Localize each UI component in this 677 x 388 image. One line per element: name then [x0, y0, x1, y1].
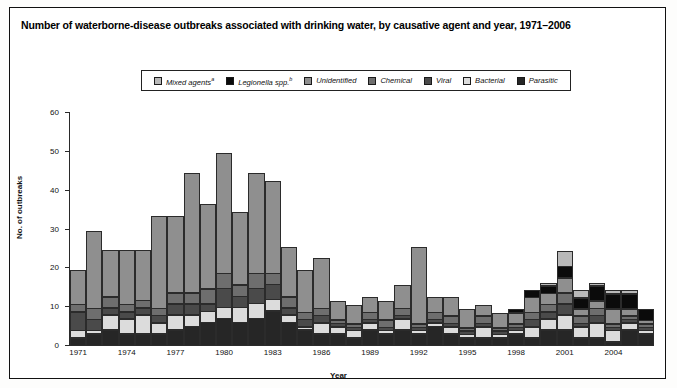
y-tick-label-10: 10 — [50, 302, 59, 311]
bar-segment-parasitic — [346, 338, 362, 346]
bar-column-1994[interactable] — [443, 112, 459, 345]
bar-column-1988[interactable] — [346, 112, 362, 345]
plot-area: 0102030405060 — [69, 112, 654, 345]
bar-segment-unidentified — [216, 153, 232, 273]
bar-column-2006[interactable] — [638, 112, 654, 345]
bar-column-1997[interactable] — [492, 112, 508, 345]
bar-column-2000[interactable] — [540, 112, 556, 345]
bar-stack — [557, 251, 573, 345]
legend-item-legionella-spp[interactable]: Legionella spp.b — [226, 75, 292, 87]
bar-segment-unidentified — [394, 285, 410, 308]
bar-segment-viral — [70, 312, 86, 331]
y-tick-label-60: 60 — [50, 108, 59, 117]
bar-column-1989[interactable] — [362, 112, 378, 345]
bar-column-2005[interactable] — [621, 112, 637, 345]
bar-segment-parasitic — [281, 322, 297, 345]
bar-segment-parasitic — [119, 334, 135, 346]
y-tick-label-40: 40 — [50, 185, 59, 194]
bar-column-1996[interactable] — [475, 112, 491, 345]
bar-stack — [362, 297, 378, 345]
bar-column-1976[interactable] — [151, 112, 167, 345]
bar-column-2004[interactable] — [605, 112, 621, 345]
plot-wrapper: 0102030405060 19711974197719801983198619… — [69, 112, 654, 348]
bar-column-2002[interactable] — [573, 112, 589, 345]
bar-stack — [167, 216, 183, 346]
bar-column-1985[interactable] — [297, 112, 313, 345]
bar-segment-viral — [216, 288, 232, 307]
bar-segment-unidentified — [362, 297, 378, 313]
bar-segment-legionella-spp — [621, 294, 637, 310]
x-tick-label-1986: 1986 — [313, 348, 331, 357]
bar-stack — [102, 250, 118, 345]
bar-stack — [70, 270, 86, 345]
bar-column-1981[interactable] — [232, 112, 248, 345]
bar-segment-chemical — [86, 308, 102, 320]
legend-item-bacterial[interactable]: Bacterial — [463, 76, 505, 85]
bar-column-1972[interactable] — [86, 112, 102, 345]
bar-stack — [281, 247, 297, 345]
legend-item-parasitic[interactable]: Parasitic — [517, 76, 558, 85]
bar-segment-parasitic — [621, 330, 637, 346]
bar-column-1975[interactable] — [135, 112, 151, 345]
bar-column-1971[interactable] — [70, 112, 86, 345]
legend-item-viral[interactable]: Viral — [424, 76, 451, 85]
bar-segment-parasitic — [540, 330, 556, 346]
legend-swatch-mixed-agents — [154, 77, 162, 85]
chart-legend: Mixed agentsaLegionella spp.bUnidentifie… — [141, 70, 571, 91]
bar-column-1974[interactable] — [119, 112, 135, 345]
bar-column-1991[interactable] — [394, 112, 410, 345]
bar-column-1998[interactable] — [508, 112, 524, 345]
legend-item-chemical[interactable]: Chemical — [368, 76, 412, 85]
bar-segment-parasitic — [216, 318, 232, 345]
x-tick-label-1977: 1977 — [167, 348, 185, 357]
bar-column-1995[interactable] — [459, 112, 475, 345]
bar-segment-parasitic — [524, 338, 540, 346]
bar-stack — [248, 173, 264, 345]
bar-segment-parasitic — [313, 334, 329, 346]
bar-column-1986[interactable] — [313, 112, 329, 345]
bar-segment-parasitic — [557, 330, 573, 346]
bar-segment-unidentified — [459, 309, 475, 328]
bar-column-2001[interactable] — [557, 112, 573, 345]
bar-column-1983[interactable] — [265, 112, 281, 345]
legend-item-unidentified[interactable]: Unidentified — [304, 76, 356, 85]
bar-column-2003[interactable] — [589, 112, 605, 345]
bar-stack — [540, 283, 556, 345]
bar-column-1973[interactable] — [102, 112, 118, 345]
legend-swatch-bacterial — [463, 77, 471, 85]
bar-column-1992[interactable] — [411, 112, 427, 345]
bar-column-1980[interactable] — [216, 112, 232, 345]
bar-stack — [573, 290, 589, 345]
bar-segment-parasitic — [184, 326, 200, 345]
bar-segment-parasitic — [135, 334, 151, 346]
bar-column-1990[interactable] — [378, 112, 394, 345]
bar-segment-bacterial — [605, 330, 621, 342]
bar-stack — [297, 270, 313, 345]
bar-segment-bacterial — [102, 315, 118, 331]
legend-label-mixed-agents: Mixed agentsa — [166, 75, 214, 87]
bar-segment-unidentified — [605, 309, 621, 325]
legend-footnote-marker: a — [211, 76, 214, 82]
bar-segment-chemical — [557, 293, 573, 305]
bar-stack — [443, 297, 459, 345]
bar-column-1999[interactable] — [524, 112, 540, 345]
bar-column-1977[interactable] — [167, 112, 183, 345]
legend-swatch-viral — [424, 77, 432, 85]
legend-label-legionella-spp: Legionella spp.b — [238, 75, 292, 87]
bar-series-group — [70, 112, 654, 345]
bar-column-1978[interactable] — [184, 112, 200, 345]
bar-segment-viral — [248, 288, 264, 304]
bar-stack — [184, 173, 200, 345]
bar-column-1984[interactable] — [281, 112, 297, 345]
bar-stack — [394, 285, 410, 345]
bar-segment-parasitic — [151, 334, 167, 346]
bar-column-1993[interactable] — [427, 112, 443, 345]
bar-segment-chemical — [281, 297, 297, 309]
bar-segment-unidentified — [281, 247, 297, 297]
bar-column-1987[interactable] — [330, 112, 346, 345]
bar-segment-parasitic — [411, 334, 427, 346]
legend-item-mixed-agents[interactable]: Mixed agentsa — [154, 75, 214, 87]
bar-column-1982[interactable] — [248, 112, 264, 345]
figure-frame: Number of waterborne-disease outbreaks a… — [9, 7, 666, 379]
bar-column-1979[interactable] — [200, 112, 216, 345]
